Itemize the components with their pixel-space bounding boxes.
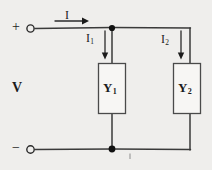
admittance1-subscript: 1 [113, 87, 117, 96]
negative-terminal-circle[interactable] [27, 146, 34, 153]
wire-bottom-left [35, 149, 112, 150]
total-current-label: I [65, 9, 69, 21]
admittance1-label: Y1 [103, 81, 116, 94]
positive-terminal-sign: + [12, 20, 20, 34]
admittance2-label: Y2 [178, 81, 191, 94]
source-voltage-label: V [12, 81, 22, 95]
branch1-current-label: I1 [86, 32, 94, 44]
branch2-current-subscript: 2 [165, 38, 169, 47]
branch1-current-subscript: 1 [90, 37, 94, 46]
admittance2-subscript: 2 [188, 87, 192, 96]
admittance2-symbol: Y [178, 80, 187, 95]
top-junction-node [109, 25, 115, 31]
circuit-diagram-canvas: + − V I I1 I2 Y1 Y2 [0, 0, 212, 170]
wire-top-left [35, 28, 112, 29]
positive-terminal-circle[interactable] [27, 25, 34, 32]
bottom-junction-node [109, 146, 116, 153]
branch2-current-label: I2 [161, 33, 169, 45]
wire-top-right [112, 28, 191, 29]
admittance1-symbol: Y [103, 80, 112, 95]
wire-bottom-right [112, 149, 191, 150]
negative-terminal-sign: − [12, 141, 20, 155]
